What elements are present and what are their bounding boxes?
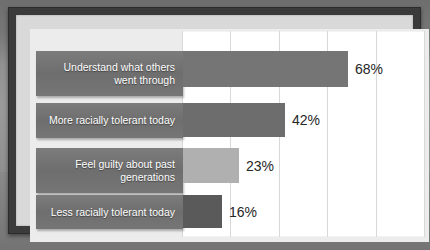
chart-frame: Understand what others went through68%Mo… [8, 7, 421, 234]
bar-value-label: 42% [292, 113, 320, 127]
category-label: Understand what others went through [64, 61, 175, 86]
bar-value-label: 23% [246, 159, 274, 173]
chart-rows: Understand what others went through68%Mo… [30, 29, 429, 242]
bar [183, 51, 348, 87]
bar-chart: Understand what others went through68%Mo… [30, 29, 429, 242]
bar-value-label: 16% [229, 205, 257, 219]
category-label-box: Less racially tolerant today [36, 195, 183, 229]
bar [183, 148, 239, 183]
category-label: Less racially tolerant today [51, 206, 175, 219]
screenshot-root: Understand what others went through68%Mo… [0, 0, 430, 250]
category-label-box: More racially tolerant today [36, 103, 183, 138]
chart-frame-inner-border: Understand what others went through68%Mo… [16, 15, 413, 226]
bar [183, 103, 285, 137]
category-label-box: Understand what others went through [36, 51, 183, 96]
category-label: More racially tolerant today [49, 114, 175, 127]
category-label: Feel guilty about past generations [75, 158, 175, 183]
category-label-box: Feel guilty about past generations [36, 148, 183, 193]
bar [183, 195, 222, 228]
bar-value-label: 68% [355, 62, 383, 76]
